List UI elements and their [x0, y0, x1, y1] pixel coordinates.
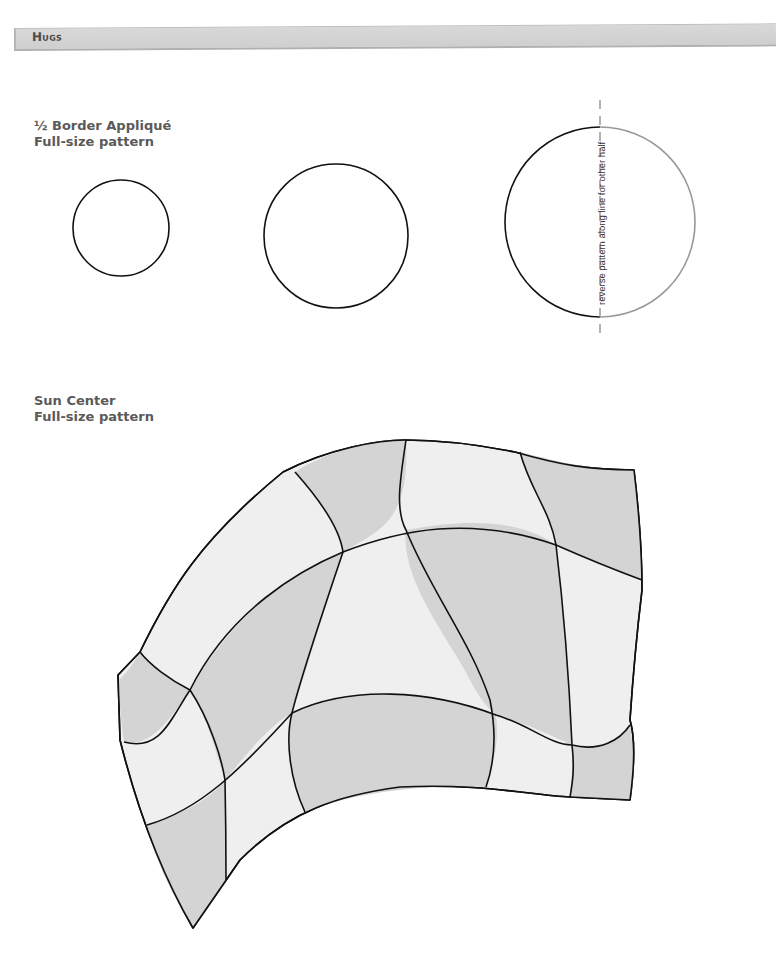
large-half-circle-reverse	[600, 127, 695, 317]
reverse-pattern-note: reverse pattern along line for other hal…	[596, 142, 607, 305]
large-half-circle-pattern	[505, 127, 600, 317]
medium-circle-pattern	[264, 164, 408, 308]
small-circle-pattern	[73, 180, 169, 276]
sun-center-pattern	[118, 440, 642, 928]
